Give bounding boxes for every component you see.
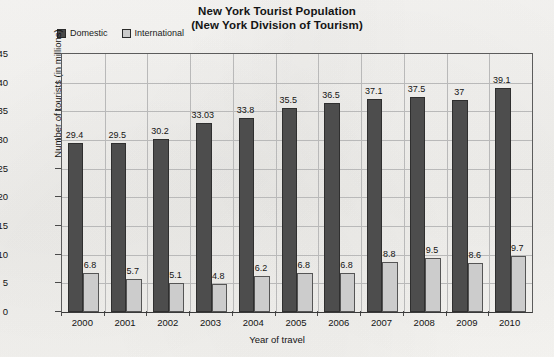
y-axis-tick-label: 10 <box>0 248 8 259</box>
bar-value-label: 35.5 <box>279 95 297 105</box>
bar-domestic-2007[interactable] <box>367 99 383 312</box>
bar-domestic-2002[interactable] <box>153 139 169 312</box>
bar-international-2000[interactable] <box>83 273 99 312</box>
bar-international-2004[interactable] <box>254 276 270 312</box>
chart-legend: Domestic International <box>57 29 184 38</box>
gridline-vertical <box>404 54 405 312</box>
bar-value-label: 8.6 <box>468 250 481 260</box>
gridline-vertical <box>190 54 191 312</box>
x-axis-tick-label: 2008 <box>402 317 446 328</box>
bar-value-label: 5.7 <box>127 266 140 276</box>
x-axis-tick-label: 2005 <box>274 317 318 328</box>
gridline-vertical <box>276 54 277 312</box>
bar-domestic-2003[interactable] <box>196 123 212 312</box>
y-axis-tick-label: 15 <box>0 220 8 231</box>
gridline-vertical <box>318 54 319 312</box>
bar-value-label: 9.7 <box>511 243 524 253</box>
bar-value-label: 6.8 <box>340 260 353 270</box>
bar-international-2009[interactable] <box>468 263 484 312</box>
y-axis-tick-label: 25 <box>0 162 8 173</box>
bar-value-label: 29.4 <box>66 130 84 140</box>
bar-value-label: 33.03 <box>192 110 215 120</box>
x-axis-tick-label: 2000 <box>60 317 104 328</box>
gridline-vertical <box>361 54 362 312</box>
bar-value-label: 5.1 <box>169 270 182 280</box>
legend-label-domestic: Domestic <box>70 29 108 38</box>
x-axis-tick-label: 2001 <box>103 317 147 328</box>
bar-domestic-2000[interactable] <box>68 143 84 312</box>
bar-chart: New York Tourist Population (New York Di… <box>0 0 554 357</box>
x-axis-tick-label: 2006 <box>317 317 361 328</box>
bar-international-2010[interactable] <box>511 256 527 312</box>
bar-domestic-2005[interactable] <box>282 108 298 312</box>
y-axis-tick-label: 40 <box>0 76 8 87</box>
bar-value-label: 6.8 <box>84 260 97 270</box>
bar-international-2008[interactable] <box>425 258 441 312</box>
bar-value-label: 33.8 <box>237 105 255 115</box>
bar-domestic-2010[interactable] <box>495 88 511 312</box>
legend-item-domestic: Domestic <box>57 29 108 38</box>
x-axis-tick-label: 2009 <box>445 317 489 328</box>
bar-domestic-2006[interactable] <box>324 103 340 312</box>
bar-value-label: 9.5 <box>426 245 439 255</box>
x-axis-tick-label: 2002 <box>146 317 190 328</box>
gridline-vertical <box>105 54 106 312</box>
bar-value-label: 30.2 <box>151 126 169 136</box>
y-axis-tick-label: 0 <box>0 306 8 317</box>
bar-international-2007[interactable] <box>382 262 398 312</box>
x-axis-tick-label: 2003 <box>189 317 233 328</box>
legend-swatch-international-icon <box>122 29 131 38</box>
bar-international-2005[interactable] <box>297 273 313 312</box>
y-axis-tick-label: 30 <box>0 134 8 145</box>
bar-international-2003[interactable] <box>212 284 228 312</box>
y-axis-tick-label: 45 <box>0 48 8 59</box>
legend-label-international: International <box>135 29 185 38</box>
bar-value-label: 6.2 <box>255 263 268 273</box>
bar-value-label: 37.1 <box>365 86 383 96</box>
bar-value-label: 36.5 <box>322 90 340 100</box>
bar-value-label: 4.8 <box>212 271 225 281</box>
y-axis-tick-label: 35 <box>0 105 8 116</box>
bar-value-label: 29.5 <box>109 130 127 140</box>
gridline-vertical <box>233 54 234 312</box>
bar-international-2006[interactable] <box>340 273 356 312</box>
bar-domestic-2009[interactable] <box>452 100 468 312</box>
gridline-vertical <box>447 54 448 312</box>
bar-domestic-2008[interactable] <box>410 97 426 312</box>
gridline-vertical <box>489 54 490 312</box>
bar-domestic-2004[interactable] <box>239 118 255 312</box>
x-axis-tick-label: 2004 <box>231 317 275 328</box>
bar-international-2002[interactable] <box>169 283 185 312</box>
bar-value-label: 39.1 <box>493 75 511 85</box>
gridline-horizontal <box>62 83 532 84</box>
y-axis-tick-label: 5 <box>0 277 8 288</box>
legend-item-international: International <box>122 29 185 38</box>
x-axis-tick-label: 2007 <box>359 317 403 328</box>
x-axis-title: Year of travel <box>0 334 554 345</box>
bar-international-2001[interactable] <box>126 279 142 312</box>
x-axis-tick-label: 2010 <box>488 317 532 328</box>
bar-domestic-2001[interactable] <box>111 143 127 312</box>
bar-value-label: 37 <box>454 87 464 97</box>
gridline-vertical <box>147 54 148 312</box>
chart-title-line-1: New York Tourist Population <box>0 4 554 18</box>
bar-value-label: 6.8 <box>297 260 310 270</box>
bar-value-label: 37.5 <box>408 84 426 94</box>
y-axis-tick-label: 20 <box>0 191 8 202</box>
bar-value-label: 8.8 <box>383 249 396 259</box>
